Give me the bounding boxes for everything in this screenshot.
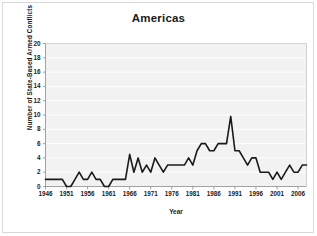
plot-area [0,0,317,236]
chart-figure: Americas Number of State-Based Armed Con… [0,0,317,236]
